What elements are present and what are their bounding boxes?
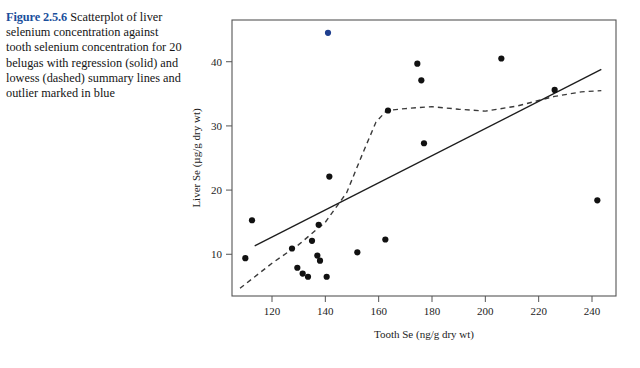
data-point — [309, 238, 315, 244]
figure-page: Figure 2.5.6 Scatterplot of liver seleni… — [0, 0, 640, 368]
data-point — [294, 265, 300, 271]
data-point — [421, 140, 427, 146]
data-points — [242, 30, 600, 280]
figure-caption: Figure 2.5.6 Scatterplot of liver seleni… — [6, 10, 184, 101]
outlier-point — [325, 30, 331, 36]
x-tick-label: 240 — [584, 305, 601, 317]
data-point — [594, 197, 600, 203]
data-point — [552, 87, 558, 93]
data-point — [242, 255, 248, 261]
data-point — [305, 274, 311, 280]
lowess-curve — [240, 91, 601, 289]
data-point — [317, 258, 323, 264]
x-tick-label: 180 — [424, 305, 441, 317]
lowess-dashed-line — [240, 91, 601, 289]
y-tick-label: 20 — [211, 184, 223, 196]
data-point — [354, 249, 360, 255]
scatterplot-canvas: 12014016018020022024010203040Tooth Se (n… — [186, 0, 640, 368]
data-point — [300, 270, 306, 276]
y-tick-label: 40 — [211, 56, 223, 68]
data-point — [326, 174, 332, 180]
plot-frame — [232, 20, 616, 296]
y-tick-label: 30 — [211, 120, 223, 132]
x-tick-label: 220 — [530, 305, 547, 317]
scatterplot-figure: 12014016018020022024010203040Tooth Se (n… — [186, 0, 640, 368]
x-tick-label: 120 — [264, 305, 281, 317]
y-axis-title: Liver Se (µg/g dry wt) — [190, 108, 203, 208]
data-point — [418, 77, 424, 83]
data-point — [385, 107, 391, 113]
regression-line — [255, 69, 602, 246]
x-tick-label: 140 — [317, 305, 334, 317]
data-point — [289, 245, 295, 251]
x-tick-label: 200 — [477, 305, 494, 317]
regression-solid-line — [255, 69, 602, 246]
data-point — [382, 236, 388, 242]
figure-number: Figure 2.5.6 — [6, 10, 67, 24]
data-point — [249, 217, 255, 223]
y-tick-label: 10 — [211, 248, 223, 260]
data-point — [414, 61, 420, 67]
data-point — [324, 274, 330, 280]
x-tick-label: 160 — [370, 305, 387, 317]
x-axis-title: Tooth Se (ng/g dry wt) — [374, 328, 474, 341]
data-point — [316, 222, 322, 228]
data-point — [498, 55, 504, 61]
